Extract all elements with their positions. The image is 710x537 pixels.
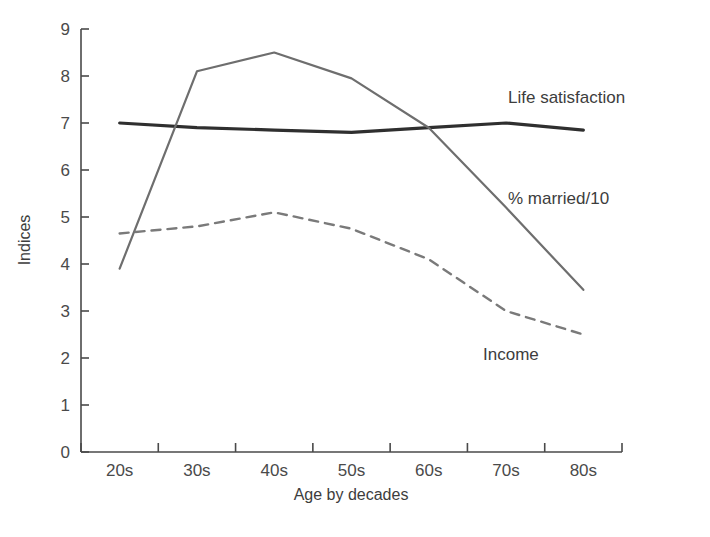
x-tick-label: 50s: [338, 461, 365, 480]
x-tick-label: 40s: [261, 461, 288, 480]
x-tick-label: 20s: [106, 461, 133, 480]
series-annotation: % married/10: [508, 189, 609, 208]
x-tick-label: 30s: [183, 461, 210, 480]
y-axis-title: Indices: [16, 215, 33, 266]
y-tick-label: 9: [61, 20, 70, 39]
y-tick-label: 8: [61, 67, 70, 86]
x-axis-title: Age by decades: [294, 486, 409, 503]
y-tick-label: 0: [61, 443, 70, 462]
series-annotation: Income: [483, 345, 539, 364]
y-tick-label: 5: [61, 208, 70, 227]
line-chart-svg: 0123456789 20s30s40s50s60s70s80s Life sa…: [0, 0, 710, 537]
x-tick-label: 70s: [492, 461, 519, 480]
y-tick-label: 7: [61, 114, 70, 133]
y-tick-label: 3: [61, 302, 70, 321]
y-tick-label: 1: [61, 396, 70, 415]
y-tick-label: 6: [61, 161, 70, 180]
x-tick-label: 80s: [570, 461, 597, 480]
y-tick-label: 4: [61, 255, 70, 274]
x-tick-label: 60s: [415, 461, 442, 480]
series-annotation: Life satisfaction: [508, 88, 625, 107]
chart-container: 0123456789 20s30s40s50s60s70s80s Life sa…: [0, 0, 710, 537]
y-tick-label: 2: [61, 349, 70, 368]
